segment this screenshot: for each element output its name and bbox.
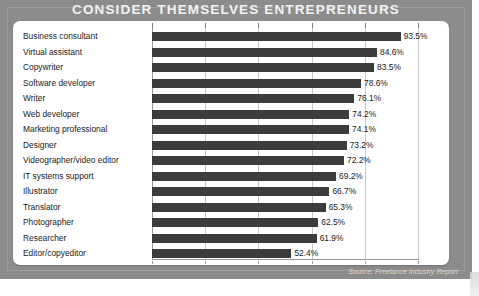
- bar-value-label: 74.1%: [349, 122, 376, 138]
- bar-row: Business consultant93.5%: [13, 29, 449, 45]
- bar-track: 69.2%: [152, 169, 418, 185]
- bar-row: Videographer/video editor72.2%: [13, 153, 449, 169]
- gridline-tick-top-0: [152, 23, 153, 28]
- bar-value-label: 73.2%: [347, 138, 374, 154]
- bar-value-label: 93.5%: [401, 29, 428, 45]
- bar: [152, 79, 361, 88]
- chart-rows: Business consultant93.5%Virtual assistan…: [13, 29, 449, 262]
- category-label: Virtual assistant: [13, 45, 144, 61]
- bar-chart: Business consultant93.5%Virtual assistan…: [13, 21, 449, 265]
- bar-value-label: 84.6%: [377, 45, 404, 61]
- category-label: Software developer: [13, 76, 144, 92]
- bar-row: Writer76.1%: [13, 91, 449, 107]
- bar-value-label: 69.2%: [336, 169, 363, 185]
- bar-row: Software developer78.6%: [13, 76, 449, 92]
- bar-row: Web developer74.2%: [13, 107, 449, 123]
- category-label: Researcher: [13, 231, 144, 247]
- bar-value-label: 78.6%: [361, 76, 388, 92]
- bar-row: Translator65.3%: [13, 200, 449, 216]
- bar: [152, 249, 291, 258]
- bar: [152, 187, 329, 196]
- bar-row: IT systems support69.2%: [13, 169, 449, 185]
- bar: [152, 32, 401, 41]
- bar: [152, 141, 347, 150]
- chart-frame: CONSIDER THEMSELVES ENTREPRENEURS Busine…: [0, 0, 472, 279]
- category-label: Writer: [13, 91, 144, 107]
- bar-track: 83.5%: [152, 60, 418, 76]
- bar: [152, 234, 317, 243]
- category-label: Photographer: [13, 215, 144, 231]
- bar: [152, 203, 326, 212]
- gridline-tick-top-40: [258, 23, 259, 28]
- bar-track: 65.3%: [152, 200, 418, 216]
- bar-track: 62.5%: [152, 215, 418, 231]
- category-label: IT systems support: [13, 169, 144, 185]
- bar-row: Illustrator66.7%: [13, 184, 449, 200]
- bar-value-label: 65.3%: [326, 200, 353, 216]
- bar-row: Designer73.2%: [13, 138, 449, 154]
- category-label: Illustrator: [13, 184, 144, 200]
- category-label: Business consultant: [13, 29, 144, 45]
- bar-row: Marketing professional74.1%: [13, 122, 449, 138]
- axis-tick-label: 60%: [303, 264, 320, 265]
- gridline-tick-top-100: [418, 23, 419, 28]
- bar-track: 84.6%: [152, 45, 418, 61]
- bar: [152, 48, 377, 57]
- bar-track: 66.7%: [152, 184, 418, 200]
- axis-tick-label: 0%: [146, 264, 158, 265]
- bar: [152, 172, 336, 181]
- page-title: CONSIDER THEMSELVES ENTREPRENEURS: [72, 2, 400, 17]
- category-label: Editor/copyeditor: [13, 246, 144, 262]
- gridline-tick-top-20: [205, 23, 206, 28]
- bar-track: 73.2%: [152, 138, 418, 154]
- bar-row: Photographer62.5%: [13, 215, 449, 231]
- category-label: Translator: [13, 200, 144, 216]
- bar-track: 74.2%: [152, 107, 418, 123]
- bar-row: Virtual assistant84.6%: [13, 45, 449, 61]
- bar-value-label: 74.2%: [349, 107, 376, 123]
- bar: [152, 156, 344, 165]
- gridline-tick-top-80: [365, 23, 366, 28]
- canvas-edge-artifact: [470, 272, 479, 296]
- bar-track: 76.1%: [152, 91, 418, 107]
- bar: [152, 218, 318, 227]
- gridline-tick-top-60: [312, 23, 313, 28]
- bar-track: 78.6%: [152, 76, 418, 92]
- bar: [152, 125, 349, 134]
- bar-track: 72.2%: [152, 153, 418, 169]
- chart-title-band: CONSIDER THEMSELVES ENTREPRENEURS: [0, 0, 472, 19]
- bar-track: 61.9%: [152, 231, 418, 247]
- bar-value-label: 61.9%: [317, 231, 344, 247]
- bar-value-label: 76.1%: [354, 91, 381, 107]
- category-label: Marketing professional: [13, 122, 144, 138]
- source-note: Source: Freelance Industry Report: [348, 267, 458, 276]
- bar: [152, 110, 349, 119]
- category-label: Videographer/video editor: [13, 153, 144, 169]
- bar-value-label: 83.5%: [374, 60, 401, 76]
- bar: [152, 63, 374, 72]
- category-label: Web developer: [13, 107, 144, 123]
- bar-value-label: 72.2%: [344, 153, 371, 169]
- chart-card: Business consultant93.5%Virtual assistan…: [13, 21, 449, 265]
- x-axis-line: [152, 259, 419, 260]
- bar-track: 93.5%: [152, 29, 418, 45]
- axis-tick-label: 100%: [407, 264, 428, 265]
- bar-value-label: 62.5%: [318, 215, 345, 231]
- category-label: Copywriter: [13, 60, 144, 76]
- bar-row: Copywriter83.5%: [13, 60, 449, 76]
- bar-value-label: 66.7%: [329, 184, 356, 200]
- bar-row: Researcher61.9%: [13, 231, 449, 247]
- bar-track: 74.1%: [152, 122, 418, 138]
- axis-tick-label: 80%: [356, 264, 373, 265]
- x-axis-labels: 0%20%40%60%80%100%: [152, 261, 418, 265]
- axis-tick-label: 20%: [197, 264, 214, 265]
- bar: [152, 94, 354, 103]
- category-label: Designer: [13, 138, 144, 154]
- axis-tick-label: 40%: [250, 264, 267, 265]
